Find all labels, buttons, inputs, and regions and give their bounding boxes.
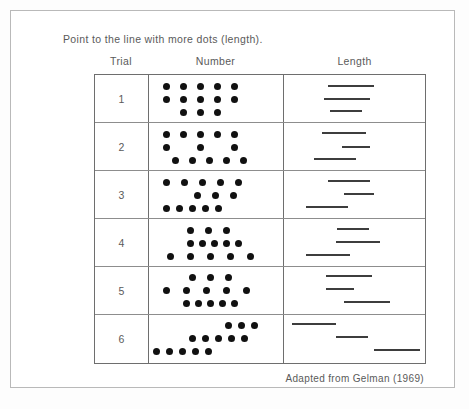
dot-icon xyxy=(176,205,183,212)
dot-icon xyxy=(203,287,210,294)
dot-icon xyxy=(202,205,209,212)
dot-icon xyxy=(212,192,219,199)
dot-row xyxy=(153,347,212,355)
dot-icon xyxy=(223,240,230,247)
length-line xyxy=(324,98,370,100)
dot-row xyxy=(187,239,242,247)
dot-icon xyxy=(180,109,187,116)
dot-icon xyxy=(243,287,250,294)
dot-icon xyxy=(223,227,230,234)
dot-icon xyxy=(199,240,206,247)
figure-attribution: Adapted from Gelman (1969) xyxy=(11,373,456,384)
length-lines-cell xyxy=(284,315,425,363)
dot-icon xyxy=(235,240,242,247)
length-line xyxy=(328,180,370,182)
dot-icon xyxy=(183,300,190,307)
dot-icon xyxy=(225,274,232,281)
column-header-number: Number xyxy=(148,55,283,67)
length-lines-cell xyxy=(284,171,425,218)
dot-icon xyxy=(231,96,238,103)
dot-row xyxy=(163,130,238,138)
dot-icon xyxy=(231,144,238,151)
dot-row xyxy=(194,191,237,199)
dot-icon xyxy=(223,287,230,294)
dot-icon xyxy=(163,83,170,90)
dot-icon xyxy=(179,348,186,355)
length-line xyxy=(342,146,370,148)
dot-icon xyxy=(194,192,201,199)
dot-icon xyxy=(197,96,204,103)
dot-icon xyxy=(241,335,248,342)
dot-icon xyxy=(214,96,221,103)
dot-icon xyxy=(197,109,204,116)
length-line xyxy=(337,228,369,230)
dot-row xyxy=(189,334,248,342)
dot-icon xyxy=(199,179,206,186)
dot-icon xyxy=(181,179,188,186)
dot-icon xyxy=(167,253,174,260)
dot-array-cell xyxy=(149,123,284,170)
dot-icon xyxy=(189,335,196,342)
trial-number-cell: 6 xyxy=(95,315,149,363)
dot-array-cell xyxy=(149,267,284,314)
dot-row xyxy=(231,143,238,151)
dot-icon xyxy=(214,109,221,116)
dot-icon xyxy=(189,157,196,164)
dot-icon xyxy=(180,83,187,90)
trial-number-cell: 5 xyxy=(95,267,149,314)
dot-icon xyxy=(247,253,254,260)
dot-icon xyxy=(180,96,187,103)
dot-icon xyxy=(231,300,238,307)
dot-icon xyxy=(163,179,170,186)
dot-icon xyxy=(219,300,226,307)
dot-row xyxy=(187,226,230,234)
dot-row xyxy=(163,286,250,294)
table-row: 5 xyxy=(95,267,425,315)
dot-icon xyxy=(187,227,194,234)
length-line xyxy=(374,349,420,351)
dot-array-cell xyxy=(149,219,284,266)
table-row: 6 xyxy=(95,315,425,363)
dot-row xyxy=(183,299,238,307)
dot-icon xyxy=(183,287,190,294)
dot-row xyxy=(163,143,170,151)
dot-icon xyxy=(211,240,218,247)
dot-icon xyxy=(225,322,232,329)
dot-icon xyxy=(172,157,179,164)
dot-icon xyxy=(240,157,247,164)
dot-array-cell xyxy=(149,315,284,363)
length-lines-cell xyxy=(284,219,425,266)
length-line xyxy=(322,132,366,134)
dot-icon xyxy=(214,131,221,138)
dot-icon xyxy=(205,227,212,234)
dot-icon xyxy=(180,131,187,138)
dot-icon xyxy=(215,205,222,212)
length-lines-cell xyxy=(284,267,425,314)
length-lines-cell xyxy=(284,123,425,170)
dot-icon xyxy=(187,253,194,260)
table-row: 4 xyxy=(95,219,425,267)
dot-array-cell xyxy=(149,171,284,218)
dot-icon xyxy=(223,157,230,164)
length-line xyxy=(336,336,368,338)
dot-row xyxy=(163,178,242,186)
dot-icon xyxy=(195,300,202,307)
dot-icon xyxy=(231,83,238,90)
dot-icon xyxy=(217,179,224,186)
dot-icon xyxy=(207,274,214,281)
figure-frame: Point to the line with more dots (length… xyxy=(10,10,455,388)
dot-row xyxy=(163,82,238,90)
trial-number-cell: 2 xyxy=(95,123,149,170)
dot-icon xyxy=(230,192,237,199)
trial-number-cell: 3 xyxy=(95,171,149,218)
trials-table: 123456 xyxy=(94,74,426,364)
table-row: 2 xyxy=(95,123,425,171)
dot-row xyxy=(225,321,258,329)
length-line xyxy=(328,85,374,87)
dot-icon xyxy=(205,348,212,355)
dot-icon xyxy=(187,240,194,247)
dot-icon xyxy=(163,96,170,103)
dot-icon xyxy=(207,253,214,260)
dot-icon xyxy=(251,322,258,329)
dot-row xyxy=(172,156,247,164)
